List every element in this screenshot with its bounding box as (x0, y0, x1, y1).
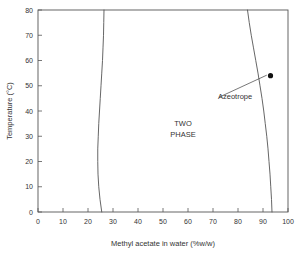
x-tick-label: 100 (282, 218, 294, 225)
phase-diagram-figure: 010203040506070809010001020304050607080M… (0, 0, 303, 257)
two-phase-label-line2: PHASE (170, 130, 195, 139)
y-tick-label: 10 (25, 183, 33, 190)
x-tick-label: 80 (234, 218, 242, 225)
x-tick-label: 10 (59, 218, 67, 225)
x-tick-label: 60 (184, 218, 192, 225)
y-tick-label: 80 (25, 7, 33, 14)
plot-frame (38, 10, 288, 212)
y-axis-title: Temperature (°C) (5, 82, 14, 140)
x-tick-label: 90 (259, 218, 267, 225)
x-tick-label: 30 (109, 218, 117, 225)
y-tick-label: 50 (25, 82, 33, 89)
chart-canvas: 010203040506070809010001020304050607080M… (0, 0, 303, 257)
curve-ester-rich-solubility-branch (248, 10, 273, 212)
azeotrope-point-marker (268, 73, 273, 78)
x-tick-label: 70 (209, 218, 217, 225)
x-tick-label: 50 (159, 218, 167, 225)
two-phase-label-line1: TWO (174, 119, 192, 128)
azeotrope-label: Azeotrope (218, 92, 252, 101)
x-axis-title: Methyl acetate in water (%w/w) (111, 239, 215, 248)
y-tick-label: 0 (29, 209, 33, 216)
y-tick-label: 40 (25, 108, 33, 115)
curve-water-rich-solubility-branch (98, 10, 104, 212)
x-tick-label: 20 (84, 218, 92, 225)
y-tick-label: 70 (25, 32, 33, 39)
y-tick-label: 20 (25, 158, 33, 165)
x-tick-label: 40 (134, 218, 142, 225)
x-tick-label: 0 (36, 218, 40, 225)
y-tick-label: 30 (25, 133, 33, 140)
y-tick-label: 60 (25, 57, 33, 64)
